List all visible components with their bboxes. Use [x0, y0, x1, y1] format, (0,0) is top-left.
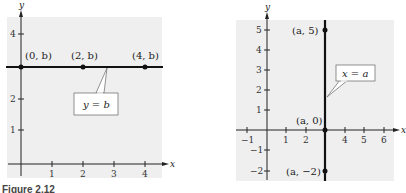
- left-y-tick-2: 2: [10, 94, 16, 104]
- left-x-axis-label: x: [170, 159, 175, 169]
- right-y-tick-neg2: −2: [250, 166, 263, 176]
- right-plot: y x −1 1 2 4 5 6 5 4 3 2 1: [236, 2, 406, 181]
- right-y-axis-label: y: [264, 2, 271, 12]
- left-plot: y x 1 2 3 4 1 2 4 (0, b) (2, b) (4, b): [6, 0, 175, 179]
- right-x-axis-arrow-icon: [393, 128, 400, 132]
- left-x-tick-1: 1: [49, 169, 55, 179]
- right-x-tick-6: 6: [381, 135, 387, 145]
- right-x-axis-label: x: [401, 125, 406, 135]
- right-x-tick-1: 1: [283, 135, 289, 145]
- left-y-axis-arrow-icon: [19, 10, 23, 17]
- point-a-5: [323, 28, 328, 33]
- right-y-tick-2: 2: [256, 85, 262, 95]
- right-x-tick-neg1: −1: [241, 135, 254, 145]
- left-x-axis-arrow-icon: [162, 162, 169, 166]
- label-point-2-b: (2, b): [71, 50, 98, 61]
- left-x-tick-4: 4: [142, 169, 148, 179]
- right-x-tick-5: 5: [361, 135, 367, 145]
- point-a-0: [323, 128, 328, 133]
- label-point-a-0: (a, 0): [296, 115, 323, 126]
- right-y-tick-neg1: −1: [250, 145, 263, 155]
- left-y-tick-4: 4: [10, 29, 16, 39]
- right-x-tick-2: 2: [303, 135, 309, 145]
- right-y-axis-arrow-icon: [265, 12, 269, 19]
- point-4-b: [143, 65, 148, 70]
- right-y-tick-5: 5: [256, 25, 262, 35]
- figure-caption: Figure 2.12: [2, 184, 55, 193]
- left-y-axis-label: y: [18, 0, 25, 10]
- right-y-tick-1: 1: [256, 105, 262, 115]
- right-y-tick-3: 3: [256, 65, 262, 75]
- callout-label-x-equals-a: x = a: [342, 68, 368, 79]
- callout-label-y-equals-b: y = b: [82, 99, 110, 110]
- left-x-tick-2: 2: [80, 169, 86, 179]
- label-point-4-b: (4, b): [132, 50, 159, 61]
- point-a-neg2: [323, 169, 328, 174]
- label-point-0-b: (0, b): [25, 50, 52, 61]
- right-x-tick-4: 4: [342, 135, 348, 145]
- figure: y x 1 2 3 4 1 2 4 (0, b) (2, b) (4, b): [0, 0, 406, 193]
- right-y-tick-4: 4: [256, 45, 262, 55]
- label-point-a-5: (a, 5): [292, 25, 319, 36]
- point-0-b: [19, 65, 24, 70]
- left-x-tick-3: 3: [111, 169, 117, 179]
- point-2-b: [81, 65, 86, 70]
- label-point-a-neg2: (a, −2): [286, 166, 321, 177]
- left-y-tick-1: 1: [10, 125, 16, 135]
